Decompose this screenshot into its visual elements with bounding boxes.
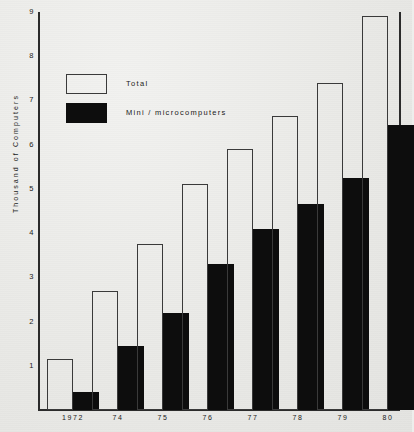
bar-total: [182, 184, 208, 410]
y-tick-label: 8: [8, 52, 34, 60]
filled-box-icon: [66, 103, 107, 123]
legend-item-label: Total: [126, 79, 148, 88]
y-tick-label: 2: [8, 318, 34, 326]
bar-mini-microcomputers: [388, 125, 414, 410]
y-tick-label: 5: [8, 185, 34, 193]
bar-total: [137, 244, 163, 410]
y-tick-label: 7: [8, 96, 34, 104]
y-tick-label: 6: [8, 141, 34, 149]
y-tick-label: 3: [8, 273, 34, 281]
legend-item-label: Mini / microcomputers: [126, 108, 227, 117]
y-tick-label: 1: [8, 362, 34, 370]
outline-box-icon: [66, 74, 107, 94]
x-tick-label: 80: [362, 414, 414, 421]
plot-area: [39, 12, 399, 410]
bar-total: [317, 83, 343, 410]
bar-total: [362, 16, 388, 410]
bar-total: [92, 291, 118, 410]
bar-total: [227, 149, 253, 410]
bar-total: [47, 359, 73, 410]
y-tick-label: 9: [8, 8, 34, 16]
y-tick-label: 4: [8, 229, 34, 237]
bar-total: [272, 116, 298, 410]
y-axis-title: Thousand of Computers: [12, 94, 19, 214]
bar-group: [362, 12, 414, 410]
